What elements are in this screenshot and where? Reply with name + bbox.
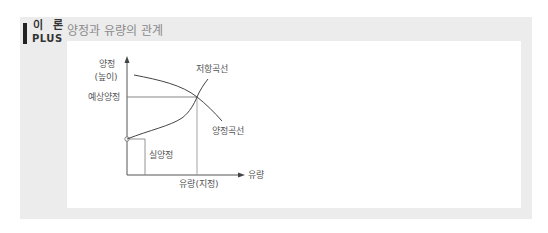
y-axis-label: 양정: [99, 59, 115, 69]
resistance-curve-label: 저항곡선: [196, 64, 228, 74]
specified-flow-label: 유량(지정): [179, 178, 218, 189]
y-axis-label-sub: (높이): [94, 72, 117, 82]
actual-head-label: 실양정: [149, 150, 173, 160]
expected-head-label: 예상양정: [88, 92, 120, 102]
x-axis-label: 유량: [248, 169, 264, 180]
head-curve: [134, 75, 222, 121]
resistance-curve: [127, 79, 208, 139]
head-flow-diagram: 양정 (높이) 예상양정 저항곡선 양정곡선 실양정 유량(지정) 유량: [0, 0, 548, 233]
actual-head-box: [127, 139, 145, 175]
head-curve-label: 양정곡선: [212, 126, 244, 136]
y-axis-arrow-icon: [125, 56, 130, 63]
x-axis-arrow-icon: [238, 173, 245, 178]
